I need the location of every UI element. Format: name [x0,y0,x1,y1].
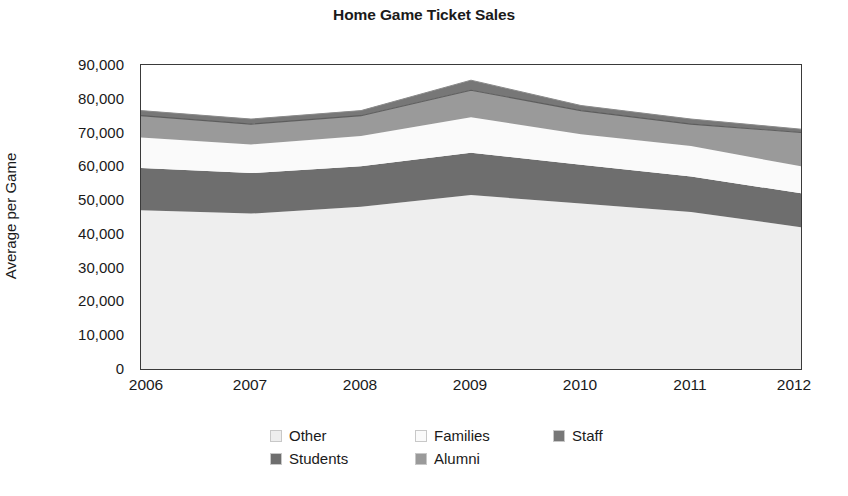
x-tick-label: 2010 [563,376,597,394]
y-axis-tick-labels: 010,00020,00030,00040,00050,00060,00070,… [28,64,132,368]
legend-entry-students[interactable]: Students [270,447,348,470]
y-tick-label: 80,000 [78,89,124,106]
legend-row-2: StudentsAlumni [270,447,690,470]
y-tick-label: 50,000 [78,191,124,208]
y-tick-label: 20,000 [78,292,124,309]
y-tick-label: 0 [116,360,124,377]
legend-entry-staff[interactable]: Staff [553,424,603,447]
legend-entry-alumni[interactable]: Alumni [415,447,480,470]
x-tick-label: 2012 [777,376,811,394]
x-tick-label: 2011 [673,376,706,394]
legend-entry-families[interactable]: Families [415,424,490,447]
chart-title: Home Game Ticket Sales [0,6,848,24]
x-tick-label: 2006 [129,376,163,394]
y-tick-label: 90,000 [78,56,124,73]
legend-label: Alumni [434,450,480,467]
chart-legend: OtherFamiliesStaff StudentsAlumni [270,424,690,470]
legend-swatch-icon [270,430,282,442]
y-tick-label: 10,000 [78,326,124,343]
legend-entry-other[interactable]: Other [270,424,327,447]
legend-label: Families [434,427,490,444]
x-tick-label: 2009 [453,376,487,394]
legend-swatch-icon [415,453,427,465]
x-tick-label: 2007 [233,376,267,394]
y-axis-label: Average per Game [2,153,19,279]
y-tick-label: 40,000 [78,224,124,241]
legend-swatch-icon [270,453,282,465]
x-tick-label: 2008 [343,376,377,394]
legend-swatch-icon [415,430,427,442]
y-tick-label: 70,000 [78,123,124,140]
legend-row-1: OtherFamiliesStaff [270,424,690,447]
chart-figure: Home Game Ticket Sales Average per Game … [0,0,848,496]
y-tick-label: 30,000 [78,258,124,275]
y-tick-label: 60,000 [78,157,124,174]
stacked-area-plot [141,65,801,369]
legend-swatch-icon [553,430,565,442]
plot-area [140,64,802,370]
legend-label: Other [289,427,327,444]
x-axis-tick-labels: 2006200720082009201020112012 [140,376,800,400]
area-series-other [141,195,801,369]
legend-label: Students [289,450,348,467]
legend-label: Staff [572,427,603,444]
